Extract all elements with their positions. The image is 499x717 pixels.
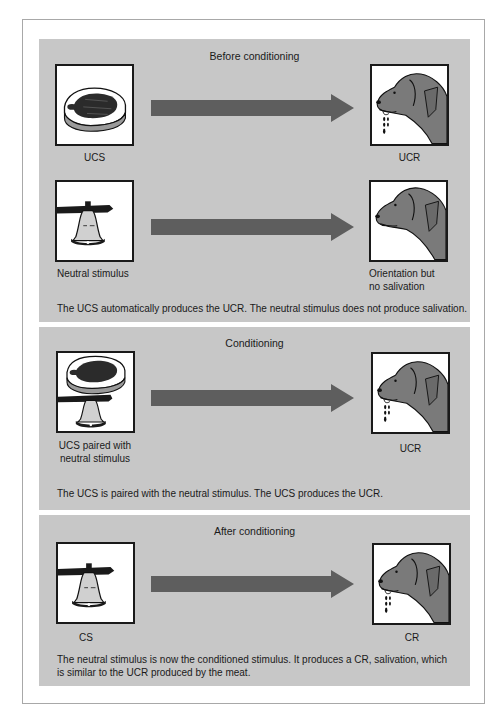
ucs-paired-label-line2: neutral stimulus (47, 452, 143, 465)
panel-after-conditioning: After conditioning CS (39, 515, 470, 686)
panel-caption: The neutral stimulus is now the conditio… (57, 653, 477, 679)
orientation-label: Orientation but no salivation (369, 267, 435, 293)
dog-icon (369, 180, 448, 262)
ucs-paired-label-line1: UCS paired with (47, 439, 143, 452)
arrow-icon (151, 213, 354, 241)
panel-before-conditioning: Before conditioning UCS (39, 39, 470, 322)
orientation-label-line1: Orientation but (369, 267, 435, 280)
panel-title: Before conditioning (39, 50, 470, 62)
panel-caption: The UCS is paired with the neutral stimu… (57, 487, 457, 500)
panel-caption-line2: is similar to the UCR produced by the me… (57, 666, 477, 679)
ucr-label: UCR (370, 151, 449, 164)
ucs-paired-label: UCS paired with neutral stimulus (47, 439, 143, 465)
neutral-stimulus-label: Neutral stimulus (57, 267, 129, 280)
panel-caption: The UCS automatically produces the UCR. … (57, 302, 477, 315)
ucs-label: UCS (55, 151, 134, 164)
panel-title: Conditioning (39, 337, 470, 349)
bell-icon (55, 180, 134, 262)
orientation-label-line2: no salivation (369, 280, 435, 293)
meat-and-bell-icon (56, 351, 135, 433)
cr-label: CR (392, 631, 432, 644)
arrow-icon (151, 384, 354, 412)
panel-conditioning: Conditioning UCS paired with neutral sti… (39, 327, 470, 510)
arrow-icon (151, 94, 354, 122)
meat-icon (55, 64, 134, 146)
salivating-dog-icon (370, 64, 449, 146)
panel-title: After conditioning (39, 525, 470, 537)
salivating-dog-icon (372, 543, 451, 625)
panel-caption-line1: The neutral stimulus is now the conditio… (57, 653, 477, 666)
ucr-label: UCR (371, 442, 450, 455)
arrow-icon (151, 570, 354, 598)
salivating-dog-icon (371, 352, 450, 434)
bell-icon (56, 542, 135, 624)
cs-label: CS (56, 631, 116, 644)
